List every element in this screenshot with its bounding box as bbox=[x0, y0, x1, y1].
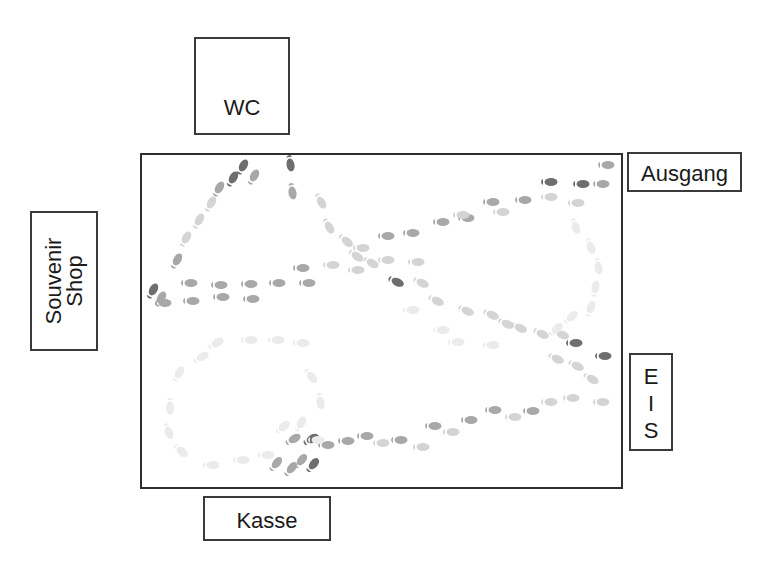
area-wc: WC bbox=[194, 37, 290, 135]
area-ausgang: Ausgang bbox=[627, 152, 742, 192]
eis-label: E I S bbox=[631, 363, 671, 444]
souvenir-shop-label: Souvenir Shop bbox=[43, 211, 85, 351]
kasse-label: Kasse bbox=[205, 510, 329, 532]
area-souvenir-shop: Souvenir Shop bbox=[30, 211, 98, 351]
wc-label: WC bbox=[196, 97, 288, 119]
area-kasse: Kasse bbox=[203, 496, 331, 541]
area-eis: E I S bbox=[629, 353, 673, 451]
room-floorplan bbox=[140, 153, 623, 489]
ausgang-label: Ausgang bbox=[629, 163, 740, 185]
